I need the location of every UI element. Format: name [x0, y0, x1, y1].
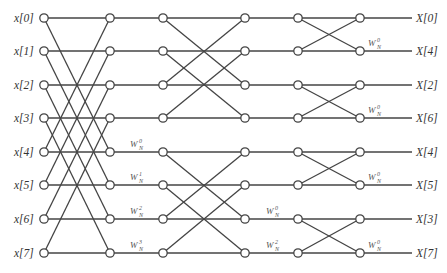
node [356, 215, 364, 223]
output-label: X[2] [415, 79, 438, 91]
node [294, 114, 302, 122]
node [294, 14, 302, 22]
node [241, 249, 249, 257]
node [159, 47, 167, 55]
input-label: x[5] [13, 179, 34, 191]
node [40, 181, 48, 189]
twiddle-subscript: N [138, 212, 144, 218]
input-label: x[6] [13, 213, 34, 225]
twiddle-factor-label: W [368, 105, 377, 115]
node [294, 47, 302, 55]
node [294, 249, 302, 257]
twiddle-factor-label: W [266, 240, 275, 250]
node [159, 181, 167, 189]
fft-butterfly-diagram: x[0]x[1]x[2]x[3]x[4]x[5]x[6]x[7]X[0]X[4]… [0, 0, 447, 273]
node [356, 148, 364, 156]
node [294, 215, 302, 223]
node [40, 47, 48, 55]
node [356, 181, 364, 189]
node [241, 181, 249, 189]
node [106, 47, 114, 55]
twiddle-subscript: N [274, 212, 280, 218]
twiddle-factor-label: W [368, 172, 377, 182]
node [356, 114, 364, 122]
node [241, 47, 249, 55]
input-label: x[7] [13, 247, 34, 259]
twiddle-exponent: 0 [377, 104, 380, 110]
twiddle-factor-label: W [130, 240, 139, 250]
twiddle-exponent: 0 [377, 37, 380, 43]
output-label: X[4] [415, 146, 438, 158]
node [241, 148, 249, 156]
twiddle-exponent: 0 [377, 239, 380, 245]
twiddle-exponent: 0 [275, 205, 278, 211]
node [356, 14, 364, 22]
node [40, 148, 48, 156]
twiddle-subscript: N [274, 246, 280, 252]
node [40, 215, 48, 223]
node [294, 81, 302, 89]
twiddle-factor-label: W [266, 206, 275, 216]
node [40, 81, 48, 89]
node [40, 14, 48, 22]
twiddle-exponent: 0 [139, 138, 142, 144]
input-label: x[4] [13, 146, 34, 158]
node [241, 14, 249, 22]
input-label: x[0] [13, 12, 34, 24]
node [106, 249, 114, 257]
node [356, 81, 364, 89]
twiddle-factor-label: W [130, 139, 139, 149]
twiddle-exponent: 2 [139, 205, 142, 211]
output-label: X[0] [415, 12, 438, 24]
input-label: x[3] [13, 112, 34, 124]
node [106, 148, 114, 156]
node [356, 249, 364, 257]
node [159, 81, 167, 89]
output-label: X[3] [415, 213, 438, 225]
node [106, 81, 114, 89]
twiddle-subscript: N [376, 111, 382, 117]
node [294, 181, 302, 189]
node [106, 14, 114, 22]
twiddle-exponent: 3 [138, 239, 142, 245]
node [294, 148, 302, 156]
twiddle-factor-label: W [130, 206, 139, 216]
node [159, 215, 167, 223]
node [241, 215, 249, 223]
output-label: X[4] [415, 45, 438, 57]
twiddle-subscript: N [138, 145, 144, 151]
output-label: X[6] [415, 112, 438, 124]
node [40, 114, 48, 122]
output-label: X[7] [415, 247, 438, 259]
node [159, 249, 167, 257]
node [40, 249, 48, 257]
node [106, 181, 114, 189]
twiddle-exponent: 0 [377, 171, 380, 177]
node [159, 14, 167, 22]
node [159, 148, 167, 156]
twiddle-subscript: N [138, 178, 144, 184]
twiddle-factor-label: W [368, 240, 377, 250]
node [241, 81, 249, 89]
twiddle-factor-label: W [130, 172, 139, 182]
twiddle-subscript: N [376, 44, 382, 50]
output-label: X[5] [415, 179, 438, 191]
node [106, 114, 114, 122]
node [159, 114, 167, 122]
twiddle-exponent: 1 [139, 171, 142, 177]
twiddle-subscript: N [138, 246, 144, 252]
node [106, 215, 114, 223]
input-label: x[2] [13, 79, 34, 91]
twiddle-factor-label: W [368, 38, 377, 48]
twiddle-subscript: N [376, 178, 382, 184]
twiddle-exponent: 2 [275, 239, 278, 245]
input-label: x[1] [13, 45, 34, 57]
twiddle-subscript: N [376, 246, 382, 252]
node [356, 47, 364, 55]
node [241, 114, 249, 122]
